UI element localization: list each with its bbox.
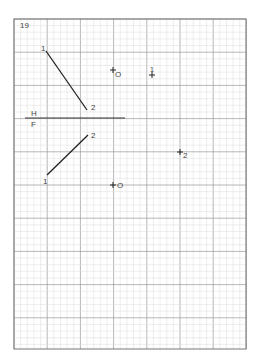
h-point-1-label: 1 (41, 45, 45, 53)
line-12-horizontal-view (46, 51, 87, 110)
drawing (25, 51, 183, 188)
f-point-1-label: 1 (43, 178, 47, 186)
h-point-marker-label: 1 (150, 66, 154, 73)
f-point-marker-label: 2 (183, 152, 187, 160)
grid (14, 19, 246, 349)
fold-label-h: H (31, 110, 37, 118)
f-point-2-label: 2 (91, 132, 95, 140)
h-origin-label: O (115, 71, 121, 79)
f-origin-label: O (117, 182, 123, 190)
graph-paper-sheet (0, 0, 256, 363)
fold-label-f: F (31, 121, 36, 129)
problem-number: 19 (20, 22, 29, 30)
h-point-2-label: 2 (91, 104, 95, 112)
line-12-frontal-view (47, 135, 88, 175)
